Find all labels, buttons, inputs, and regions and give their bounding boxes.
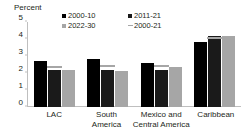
- legend-item-2000-10[interactable]: 2000-10: [62, 11, 120, 21]
- y-tick-label: 3: [19, 48, 23, 56]
- bar-slot: [194, 22, 207, 107]
- y-tick-mark: [25, 21, 27, 22]
- bar-2022-30-lac[interactable]: [62, 70, 75, 107]
- category-label: LAC: [28, 110, 80, 140]
- bar-set: [135, 22, 188, 107]
- category-label-line: Central America: [133, 120, 190, 130]
- bar-2022-30-mexico-and-central-america[interactable]: [169, 67, 182, 107]
- bar-group-lac: [28, 22, 81, 107]
- bar-2000-10-south-america[interactable]: [87, 59, 100, 107]
- bar-2011-21-south-america[interactable]: [101, 70, 114, 107]
- marker-2000-21-mexico-and-central-america[interactable]: [154, 65, 169, 67]
- category-label: Mexico andCentral America: [133, 110, 190, 140]
- bar-slot: [222, 22, 235, 107]
- bar-set: [81, 22, 134, 107]
- marker-2000-21-caribbean[interactable]: [207, 37, 222, 39]
- bar-2011-21-caribbean[interactable]: [208, 36, 221, 107]
- legend-label: 2011-21: [134, 11, 161, 21]
- y-tick-label: 2: [19, 65, 23, 73]
- bar-slot: [48, 22, 61, 107]
- y-tick-mark: [25, 55, 27, 56]
- y-tick-label: 4: [19, 31, 23, 39]
- bar-slot: [208, 22, 221, 107]
- y-tick-mark: [25, 38, 27, 39]
- y-tick-label: 0: [19, 99, 23, 107]
- plot-area: 543210: [27, 22, 241, 107]
- bar-2000-10-mexico-and-central-america[interactable]: [141, 63, 154, 107]
- bar-set: [188, 22, 241, 107]
- bar-2022-30-south-america[interactable]: [115, 71, 128, 107]
- y-tick-mark: [25, 72, 27, 73]
- legend-swatch-square-icon: [62, 14, 66, 18]
- category-label: SouthAmerica: [80, 110, 132, 140]
- legend-label: 2000-10: [68, 11, 96, 21]
- bar-set: [28, 22, 81, 107]
- bar-2011-21-mexico-and-central-america[interactable]: [155, 70, 168, 107]
- bar-group-caribbean: [188, 22, 241, 107]
- bar-2000-10-lac[interactable]: [34, 61, 47, 107]
- y-tick-mark: [25, 106, 27, 107]
- y-tick-mark: [25, 89, 27, 90]
- legend-swatch-square-icon: [128, 14, 132, 18]
- category-label-line: LAC: [28, 110, 80, 120]
- category-label-line: America: [80, 120, 132, 130]
- marker-2000-21-south-america[interactable]: [100, 65, 115, 67]
- bar-slot: [115, 22, 128, 107]
- bar-slot: [155, 22, 168, 107]
- category-label: Caribbean: [190, 110, 242, 140]
- bar-groups: [28, 22, 241, 107]
- legend-item-2011-21[interactable]: 2011-21: [128, 11, 190, 21]
- bar-slot: [62, 22, 75, 107]
- bar-2000-10-caribbean[interactable]: [194, 42, 207, 107]
- marker-2000-21-lac[interactable]: [47, 66, 62, 68]
- bar-slot: [87, 22, 100, 107]
- y-tick-label: 5: [19, 14, 23, 22]
- x-axis-category-labels: LACSouthAmericaMexico andCentral America…: [28, 110, 242, 140]
- bar-slot: [169, 22, 182, 107]
- y-tick-label: 1: [19, 82, 23, 90]
- chart-container: Percent 2000-102011-212022-302000-21 543…: [0, 0, 246, 140]
- bar-group-mexico-and-central-america: [135, 22, 188, 107]
- category-label-line: Mexico and: [133, 110, 190, 120]
- bar-slot: [34, 22, 47, 107]
- bar-group-south-america: [81, 22, 134, 107]
- bar-slot: [101, 22, 114, 107]
- bar-2011-21-lac[interactable]: [48, 70, 61, 107]
- bar-slot: [141, 22, 154, 107]
- y-axis-title: Percent: [14, 3, 42, 12]
- bar-2022-30-caribbean[interactable]: [222, 36, 235, 107]
- category-label-line: Caribbean: [190, 110, 242, 120]
- category-label-line: South: [80, 110, 132, 120]
